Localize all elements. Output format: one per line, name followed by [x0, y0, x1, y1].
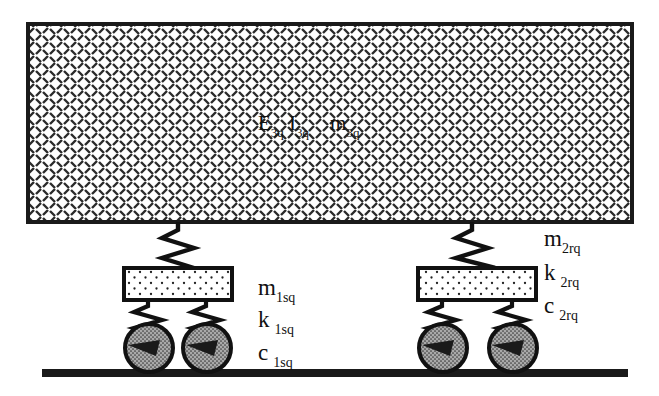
rear-stiffness-subscript: 2rq	[561, 275, 580, 290]
rear-axle-labels: m2rq k2rq c2rq	[544, 226, 581, 323]
rear-damping-label: c2rq	[544, 293, 578, 323]
ground-group	[42, 369, 628, 377]
beam-E-symbol: E	[258, 111, 271, 135]
front-damping-symbol: c	[258, 340, 268, 365]
beam-group: E3q I3q m3q	[28, 24, 632, 222]
front-mass-symbol: m	[258, 275, 276, 300]
front-mass-block	[124, 268, 232, 300]
rear-mass-label: m2rq	[544, 226, 581, 256]
front-mass-label: m1sq	[258, 275, 295, 305]
rear-mass-block	[418, 268, 536, 300]
front-axle-labels: m1sq k1sq c1sq	[258, 275, 295, 370]
rear-right-wheel	[489, 324, 537, 372]
front-left-wheel	[125, 324, 173, 372]
rear-damping-subscript: 2rq	[559, 308, 578, 323]
rear-axle-assembly: m2rq k2rq c2rq	[418, 222, 581, 372]
rear-stiffness-symbol: k	[544, 260, 556, 285]
rear-damping-symbol: c	[544, 293, 554, 318]
ground-line	[42, 369, 628, 377]
front-stiffness-symbol: k	[258, 307, 270, 332]
beam-E-subscript: 3q	[271, 125, 285, 140]
front-axle-assembly: m1sq k1sq c1sq	[124, 222, 295, 372]
beam-m-symbol: m	[330, 111, 346, 135]
front-mass-subscript: 1sq	[276, 290, 295, 305]
front-damping-subscript: 1sq	[273, 355, 292, 370]
rear-mass-symbol: m	[544, 226, 562, 251]
beam-I-subscript: 3q	[296, 125, 310, 140]
beam-I-symbol: I	[289, 111, 296, 135]
vibration-diagram: E3q I3q m3q	[0, 0, 659, 396]
front-right-wheel	[183, 324, 231, 372]
front-damping-label: c1sq	[258, 340, 293, 370]
rear-left-wheel	[419, 324, 467, 372]
rear-stiffness-label: k2rq	[544, 260, 579, 290]
beam-m-subscript: 3q	[346, 125, 360, 140]
rear-mass-subscript: 2rq	[562, 241, 581, 256]
front-stiffness-label: k1sq	[258, 307, 294, 337]
diagram-canvas: E3q I3q m3q	[0, 0, 659, 396]
front-stiffness-subscript: 1sq	[275, 322, 294, 337]
